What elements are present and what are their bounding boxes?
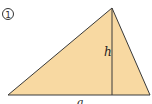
base-label: a [77,96,84,104]
height-label: h [104,45,112,59]
triangle-shape [8,8,150,95]
figure-number-badge: 1 [3,9,14,20]
triangle-diagram: 1 h a [0,0,152,104]
figure-number: 1 [5,10,11,20]
